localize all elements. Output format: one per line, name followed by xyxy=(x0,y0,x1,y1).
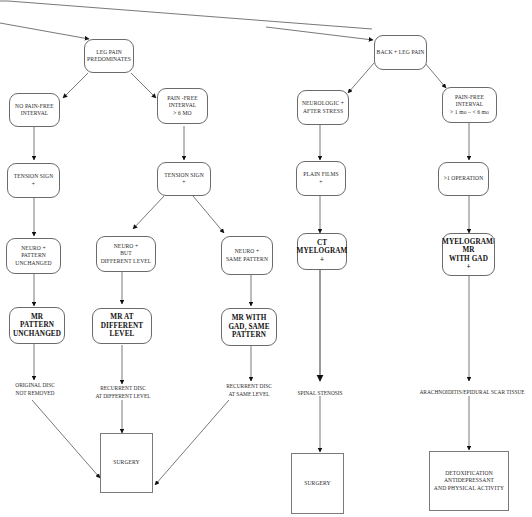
node-myelogram-mr-gad: MYELOGRAM/ MR WITH GAD + xyxy=(442,233,495,276)
node-tension-sign-left: TENSION SIGN + xyxy=(7,163,60,198)
edge-to-back-leg xyxy=(266,27,373,40)
node-detox-antidepressant-activity: DETOXIFICATION ANTIDEPRESSANT AND PHYSIC… xyxy=(429,451,509,511)
node-pain-free-interval-1-6mo: PAIN-FREE INTERVAL > 1 mo – < 6 mo xyxy=(442,87,497,123)
node-surgery-left: SURGERY xyxy=(100,433,153,493)
node-neuro-same-pattern: NEURO + SAME PATTERN xyxy=(221,236,273,275)
node-back-leg-pain: BACK + LEG PAIN xyxy=(374,35,427,70)
node-neurologic-after-stress: NEUROLOGIC + AFTER STRESS xyxy=(297,90,349,125)
node-ct-myelogram: CT MYELOGRAM + xyxy=(297,233,347,270)
node-neuro-different-level: NEURO + BUT DIFFERENT LEVEL xyxy=(96,236,156,272)
node-gt1-operation: >1 OPERATION xyxy=(438,162,489,196)
node-mr-pattern-unchanged: MR PATTERN UNCHANGED xyxy=(9,307,65,344)
node-pain-free-interval-6mo: PAIN -FREE INTERVAL > 6 MO xyxy=(157,88,208,124)
label-arachnoiditis-epidural-scar-tissue: ARACHNOIDITIS/EPIDURAL SCAR TISSUE xyxy=(413,389,531,397)
node-mr-gad-same-pattern: MR WITH GAD, SAME PATTERN xyxy=(221,308,277,346)
edge-to-leg-pain xyxy=(0,23,89,39)
label-recurrent-disc-same-level: RECURRENT DISC AT SAME LEVEL xyxy=(218,383,280,398)
flowchart-canvas: LEG PAIN PREDOMINATES NO PAIN-FREE INTER… xyxy=(0,0,532,517)
node-no-pain-free-interval: NO PAIN-FREE INTERVAL xyxy=(9,93,60,127)
edge-top-long xyxy=(8,1,372,29)
node-neuro-pattern-unchanged: NEURO + PATTERN UNCHANGED xyxy=(6,238,61,274)
node-mr-different-level: MR AT DIFFERENT LEVEL xyxy=(92,308,152,344)
label-original-disc-not-removed: ORIGINAL DISC NOT REMOVED xyxy=(6,382,64,397)
label-recurrent-disc-different-level: RECURRENT DISC AT DIFFERENT LEVEL xyxy=(88,385,158,400)
label-spinal-stenosis: SPINAL STENOSIS xyxy=(290,390,350,398)
node-surgery-right: SURGERY xyxy=(291,453,344,514)
node-tension-sign-mid: TENSION SIGN + xyxy=(157,162,211,196)
node-leg-pain-predominates: LEG PAIN PREDOMINATES xyxy=(84,39,134,73)
node-plain-films: PLAIN FILMS + xyxy=(296,161,346,196)
